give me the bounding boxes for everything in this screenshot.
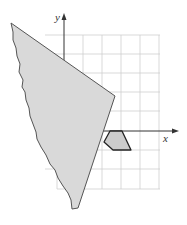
pentagon-shape — [104, 131, 131, 150]
x-axis-label: x — [162, 132, 168, 144]
y-axis-label: y — [54, 11, 60, 23]
torn-paper-shape — [11, 23, 115, 209]
y-axis-arrow-icon — [62, 13, 67, 20]
x-axis-arrow-icon — [172, 129, 179, 134]
diagram-canvas: y x — [0, 0, 187, 225]
y-axis: y — [54, 11, 67, 60]
